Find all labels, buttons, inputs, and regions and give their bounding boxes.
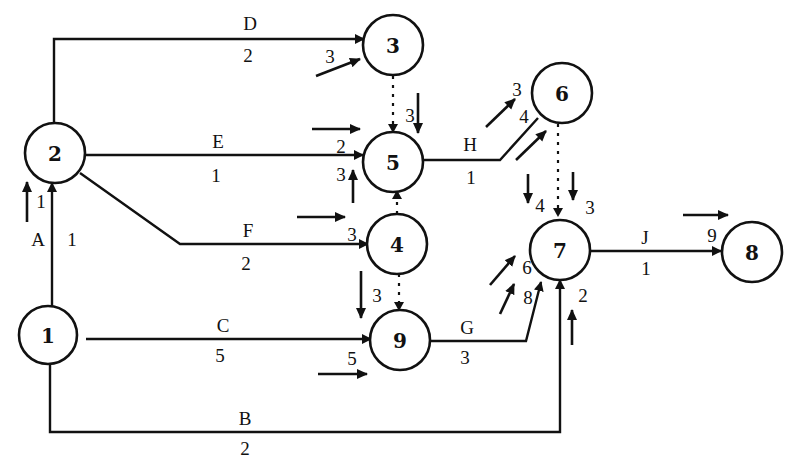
time-label: 4 [519, 106, 529, 127]
node-8: 8 [722, 222, 782, 282]
activity-j: J 1 [590, 227, 721, 279]
node-7-label: 7 [553, 239, 567, 263]
time-label: 3 [325, 46, 335, 67]
network-diagram: A 1 B 2 C 5 D 2 E 1 F 2 G 3 H 1 [0, 0, 792, 462]
activity-f: F 2 [80, 173, 368, 274]
dummy-4-5 [392, 190, 402, 214]
activity-e-label: E [212, 131, 224, 152]
activity-d-label: D [243, 13, 257, 34]
time-label: 3 [405, 105, 415, 126]
activity-f-label: F [243, 220, 254, 241]
time-label: 1 [36, 191, 46, 212]
time-label: 3 [372, 285, 382, 306]
activity-j-label: J [641, 227, 648, 248]
activity-h-label: H [463, 134, 477, 155]
activity-g-label: G [460, 317, 474, 338]
time-label: 2 [578, 285, 588, 306]
dummy-6-7 [553, 124, 563, 217]
activity-c: C 5 [86, 315, 371, 366]
node-5-label: 5 [386, 151, 400, 175]
time-label: 5 [347, 348, 357, 369]
node-3-label: 3 [386, 34, 400, 58]
activity-a-label: A [31, 229, 45, 250]
activity-e-duration: 1 [211, 165, 221, 186]
activity-c-label: C [217, 315, 230, 336]
time-label: 3 [347, 224, 357, 245]
dummy-3-5 [388, 76, 398, 133]
time-label: 3 [585, 197, 595, 218]
node-2: 2 [25, 123, 85, 183]
node-8-label: 8 [745, 241, 759, 265]
node-6: 6 [532, 63, 592, 123]
activity-a-duration: 1 [67, 229, 77, 250]
event-time-node-3: 3 [316, 46, 360, 76]
event-time-node-8: 9 [683, 215, 728, 246]
network-svg: A 1 B 2 C 5 D 2 E 1 F 2 G 3 H 1 [0, 0, 792, 462]
activity-j-duration: 1 [641, 258, 651, 279]
time-label: 6 [522, 257, 532, 278]
event-time-node-4: 3 [297, 217, 357, 245]
node-6-label: 6 [555, 82, 569, 106]
node-4-label: 4 [390, 233, 404, 257]
activity-f-duration: 2 [241, 253, 251, 274]
node-9: 9 [370, 310, 430, 370]
activity-b-label: B [239, 408, 252, 429]
time-label: 9 [707, 225, 717, 246]
time-label: 3 [512, 79, 522, 100]
dummy-4-9 [394, 274, 404, 311]
activity-e: E 1 [86, 131, 363, 186]
node-4: 4 [367, 214, 427, 274]
activity-h-duration: 1 [466, 167, 476, 188]
node-9-label: 9 [393, 329, 407, 353]
event-time-node-2: 1 [27, 182, 46, 222]
activity-c-duration: 5 [215, 345, 225, 366]
activity-d-duration: 2 [243, 45, 253, 66]
time-label: 8 [523, 287, 533, 308]
activity-d: D 2 [54, 13, 364, 122]
node-1: 1 [19, 306, 77, 364]
time-label: 4 [535, 195, 545, 216]
time-label: 2 [336, 136, 346, 157]
activity-g-duration: 3 [460, 347, 470, 368]
node-7: 7 [530, 220, 590, 280]
activity-h: H 1 [424, 118, 538, 188]
event-time-node-9: 3 5 [318, 271, 382, 374]
activity-b: B 2 [50, 280, 560, 459]
node-2-label: 2 [48, 142, 62, 166]
node-3: 3 [363, 15, 423, 75]
node-1-label: 1 [41, 324, 55, 348]
time-label: 3 [336, 164, 346, 185]
activity-b-duration: 2 [240, 438, 250, 459]
node-5: 5 [363, 132, 423, 192]
